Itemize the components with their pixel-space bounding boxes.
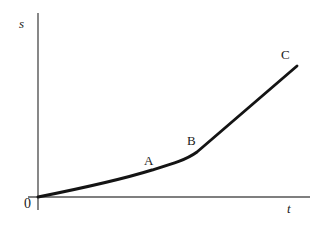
curve-point-label-a: A	[144, 154, 153, 167]
displacement-curve	[38, 66, 297, 197]
figure-container: s t 0 A B C	[0, 0, 328, 229]
origin-label: 0	[24, 197, 31, 211]
curve-point-label-c: C	[281, 48, 290, 61]
x-axis-label: t	[287, 202, 291, 215]
plot-canvas	[0, 0, 328, 229]
y-axis-label: s	[19, 17, 24, 30]
curve-point-label-b: B	[187, 134, 196, 147]
